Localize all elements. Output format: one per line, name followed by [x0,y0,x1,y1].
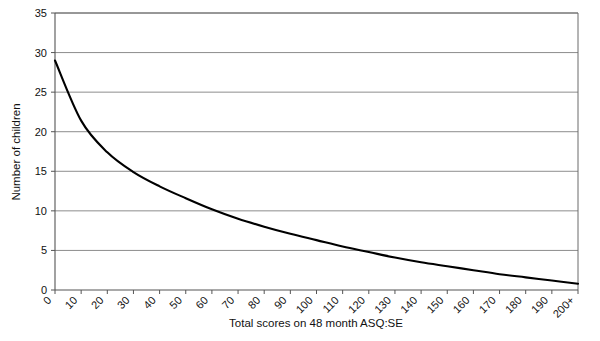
x-tick-label: 90 [272,294,289,311]
x-tick-label: 120 [346,294,367,315]
x-tick-label: 80 [245,294,262,311]
y-tick-label: 30 [35,47,47,59]
x-tick-label: 140 [398,294,419,315]
x-tick-label: 10 [62,294,79,311]
y-tick-label: 35 [35,7,47,19]
x-tick-label: 100 [293,294,314,315]
x-axis-ticks: 0102030405060708090100110120130140150160… [41,290,578,320]
x-axis-title: Total scores on 48 month ASQ:SE [229,317,403,329]
chart-container: 05101520253035 0102030405060708090100110… [0,0,600,341]
y-axis-title: Number of children [10,103,22,200]
x-tick-label: 70 [219,294,236,311]
x-tick-label: 60 [193,294,210,311]
y-tick-label: 5 [41,244,47,256]
x-tick-label: 110 [320,294,341,315]
x-tick-label: 40 [141,294,158,311]
x-tick-label: 190 [529,294,550,315]
x-tick-label: 50 [167,294,184,311]
plot-background [55,13,578,290]
x-tick-label: 20 [89,294,106,311]
x-tick-label: 150 [424,294,445,315]
x-tick-label: 130 [372,294,393,315]
y-axis-ticks: 05101520253035 [35,7,55,296]
x-tick-label: 0 [41,294,54,307]
x-tick-label: 30 [115,294,132,311]
y-tick-label: 25 [35,86,47,98]
x-tick-label: 170 [476,294,497,315]
x-tick-label: 160 [450,294,471,315]
line-chart: 05101520253035 0102030405060708090100110… [0,0,600,341]
y-tick-label: 10 [35,205,47,217]
x-tick-label: 200+ [550,294,576,320]
y-tick-label: 15 [35,165,47,177]
x-tick-label: 180 [503,294,524,315]
y-tick-label: 20 [35,126,47,138]
